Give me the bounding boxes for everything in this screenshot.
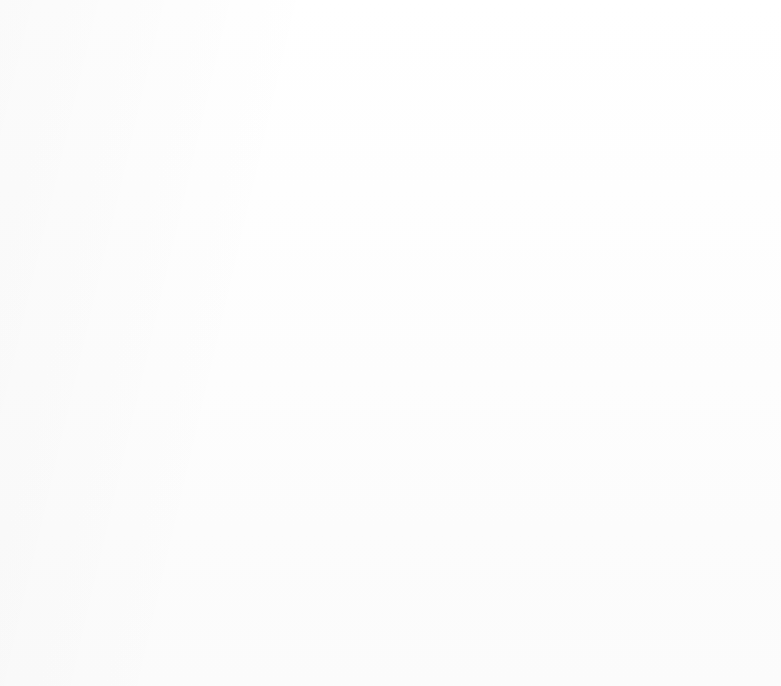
x-axis-tick-label: Technology	[266, 394, 283, 477]
bar-value-label: 5	[294, 315, 304, 334]
x-axis-tick-label: Sports	[483, 394, 500, 442]
bar-value-label: 2	[594, 342, 604, 361]
y-axis-tick-label: 35	[28, 60, 66, 79]
x-axis-label-slot: Malaysian Missing Flight	[174, 384, 224, 684]
bar-slot: 9	[124, 24, 174, 384]
x-axis-tick-label: Others	[732, 394, 749, 444]
bar-slot: 5	[224, 24, 274, 384]
y-axis-tick-label: 20	[28, 195, 66, 214]
y-axis-tick-label: 15	[28, 240, 66, 259]
x-axis-label-slot: Press Freedom	[674, 384, 724, 684]
bar	[386, 366, 412, 384]
bar	[286, 339, 312, 384]
bar	[636, 366, 662, 384]
x-axis-label-slot: H.K. Protest	[574, 384, 624, 684]
x-axis-label-slot: Technology	[274, 384, 324, 684]
bar-value-label: 2	[444, 342, 454, 361]
bar-slot: 5	[274, 24, 324, 384]
bar-slot: 1	[724, 24, 774, 384]
x-axis-tick-label: Relations with the U.S. and Japan	[133, 394, 150, 643]
bar-slot: 2	[674, 24, 724, 384]
y-axis-tick-label: 10	[28, 285, 66, 304]
x-axis-label-slot: Environment	[424, 384, 474, 684]
bar-slot: 4	[324, 24, 374, 384]
bar-value-label: 2	[394, 342, 404, 361]
bar	[686, 366, 712, 384]
bar	[436, 366, 462, 384]
y-axis-tick-labels: 4035302520151050	[28, 0, 66, 686]
bar-value-label: 9	[144, 279, 154, 298]
bar	[739, 375, 759, 384]
bar-slot: 2	[624, 24, 674, 384]
bar-slot: 2	[374, 24, 424, 384]
bar-value-label: 1	[744, 351, 754, 370]
bar-slot: 2	[574, 24, 624, 384]
bar-value-label: 2	[694, 342, 704, 361]
x-axis-tick-label: H.K. Protest	[563, 394, 580, 483]
bar-slot: 38	[74, 24, 124, 384]
bar-slot: 2	[474, 24, 524, 384]
bar-value-label: 2	[544, 342, 554, 361]
bar-slot: 2	[524, 24, 574, 384]
x-axis-tick-labels: South China SeaEconomy/BusinessMalaysian…	[74, 384, 774, 686]
bar	[136, 303, 162, 384]
bar	[336, 348, 362, 384]
bar	[236, 339, 262, 384]
bar-chart: 报道篇数 4035302520151050 389655422222221 So…	[0, 0, 781, 686]
x-axis-label-slot: Naval	[324, 384, 374, 684]
y-axis-tick-label: 40	[28, 15, 66, 34]
bar-slot: 6	[174, 24, 224, 384]
y-axis-tick-label: 0	[28, 375, 66, 394]
bar-value-label: 38	[89, 18, 110, 37]
y-axis-tick-label: 5	[28, 330, 66, 349]
x-axis-tick-label: Travel	[535, 394, 552, 439]
x-axis-tick-label: Environment	[411, 394, 428, 487]
y-axis-tick-label: 25	[28, 150, 66, 169]
bar-value-label: 2	[644, 342, 654, 361]
bar-value-label: 4	[344, 324, 354, 343]
bar-value-label: 6	[194, 306, 204, 325]
x-axis-tick-label: Naval	[336, 394, 353, 436]
x-axis-tick-label: South China Sea	[45, 394, 62, 519]
bar-value-label: 5	[244, 315, 254, 334]
x-axis-tick-label: Economy/Business	[87, 394, 104, 534]
plot-area: 389655422222221	[74, 24, 774, 384]
bar	[486, 366, 512, 384]
x-axis-tick-label: Press Freedom	[651, 394, 668, 507]
x-axis-label-slot: Others	[724, 384, 774, 684]
bar	[186, 330, 212, 384]
bar-slot: 2	[424, 24, 474, 384]
x-axis-label-slot: Sports	[474, 384, 524, 684]
bar	[536, 366, 562, 384]
bar-value-label: 2	[494, 342, 504, 361]
y-axis-tick-label: 30	[28, 105, 66, 124]
bar	[86, 42, 112, 384]
bar-series: 389655422222221	[74, 24, 774, 384]
x-axis-tick-label: Accident	[376, 394, 393, 457]
bar	[586, 366, 612, 384]
x-axis-tick-label: Energy	[631, 394, 648, 446]
